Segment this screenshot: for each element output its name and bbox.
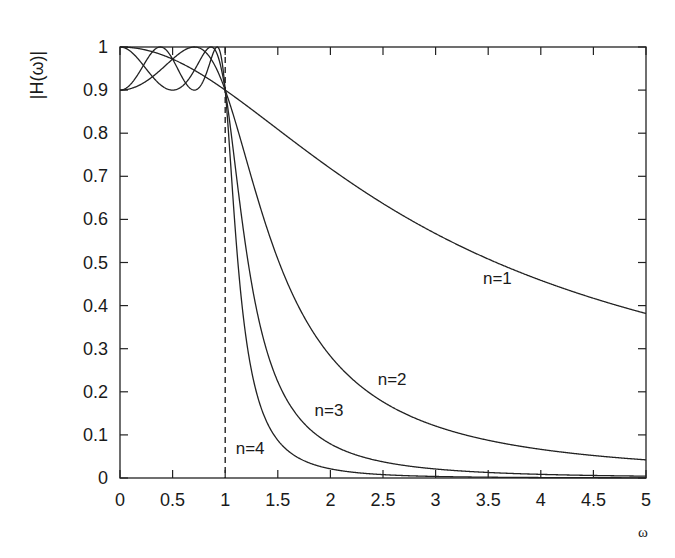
x-axis-label: ω <box>638 524 648 540</box>
x-tick-label: 3 <box>431 490 441 510</box>
chart-svg: 00.511.522.533.544.55 00.10.20.30.40.50.… <box>0 0 675 558</box>
curve-label-n3: n=3 <box>315 401 344 420</box>
curve-labels: n=1n=2n=3n=4 <box>236 269 512 458</box>
y-tick-label: 0 <box>98 468 108 488</box>
y-tick-label: 0.5 <box>83 253 108 273</box>
y-tick-label: 0.3 <box>83 339 108 359</box>
x-tick-label: 1 <box>220 490 230 510</box>
curve-n4 <box>120 47 646 478</box>
x-tick-label: 4.5 <box>581 490 606 510</box>
x-tick-label: 5 <box>641 490 651 510</box>
x-tick-label: 2.5 <box>370 490 395 510</box>
curve-label-n2: n=2 <box>378 370 407 389</box>
x-tick-label: 2 <box>325 490 335 510</box>
x-axis: 00.511.522.533.544.55 <box>115 47 651 510</box>
curve-n2 <box>120 47 646 460</box>
x-tick-label: 4 <box>536 490 546 510</box>
x-tick-label: 1.5 <box>265 490 290 510</box>
chart: 00.511.522.533.544.55 00.10.20.30.40.50.… <box>0 0 675 558</box>
y-tick-label: 0.4 <box>83 296 108 316</box>
x-tick-label: 0.5 <box>160 490 185 510</box>
curve-label-n4: n=4 <box>236 439 265 458</box>
x-tick-label: 3.5 <box>476 490 501 510</box>
y-tick-label: 1 <box>98 37 108 57</box>
curves-group <box>120 47 646 478</box>
curve-n3 <box>120 47 646 476</box>
y-axis-label: |H(ω)| <box>27 51 47 99</box>
curve-label-n1: n=1 <box>483 269 512 288</box>
y-tick-label: 0.9 <box>83 80 108 100</box>
y-tick-label: 0.1 <box>83 425 108 445</box>
y-tick-label: 0.8 <box>83 123 108 143</box>
y-axis: 00.10.20.30.40.50.60.70.80.91 <box>83 37 646 488</box>
y-tick-label: 0.6 <box>83 209 108 229</box>
x-tick-label: 0 <box>115 490 125 510</box>
plot-frame <box>120 47 646 478</box>
y-tick-label: 0.2 <box>83 382 108 402</box>
y-tick-label: 0.7 <box>83 166 108 186</box>
